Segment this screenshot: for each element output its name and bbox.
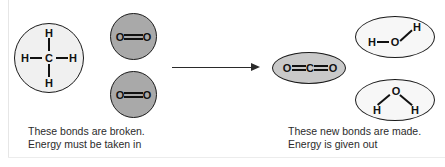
reaction-arrow-shaft [172, 67, 252, 69]
bond-c-h-bottom [48, 64, 50, 77]
atom-h-bottom: H [45, 78, 53, 89]
bond-o-double-bottom [124, 92, 143, 98]
atom-o-left-co2: O [283, 63, 292, 74]
caption-bonds-broken-line2: Energy must be taken in [28, 138, 141, 151]
atom-o-top-water-bottom: O [392, 86, 401, 97]
atom-h-top: H [45, 28, 53, 39]
bond-c-h-right [56, 57, 68, 59]
atom-o-center-water-top: O [391, 37, 400, 48]
bond-c-h-top [48, 38, 50, 51]
bond-o-double-top [124, 34, 143, 40]
atom-h-left-water-bottom: H [373, 105, 381, 116]
page-edge-bottom-line [8, 157, 445, 158]
atom-h-right: H [69, 53, 77, 64]
bond-co2-right-double [314, 65, 328, 71]
bond-c-h-left [30, 57, 42, 59]
atom-h-upper-water-top: H [413, 22, 421, 33]
atom-o-right-co2: O [329, 63, 338, 74]
atom-o-left-bottom: O [116, 90, 125, 101]
atom-c-center-co2: C [306, 63, 314, 74]
atom-o-left-top: O [116, 32, 125, 43]
atom-h-right-water-bottom: H [411, 105, 419, 116]
atom-o-right-bottom: O [143, 90, 152, 101]
atom-h-left: H [21, 53, 29, 64]
reaction-energy-diagram: H H C H H O O O O O C O H O H O H H Thes… [0, 0, 445, 167]
caption-bonds-made-line1: These new bonds are made. [288, 125, 421, 138]
atom-c-center: C [45, 53, 53, 64]
bond-h-o-top-horizontal [377, 41, 389, 43]
atom-h-left-water-top: H [368, 37, 376, 48]
atom-o-right-top: O [143, 32, 152, 43]
reaction-arrow-head [251, 63, 260, 71]
caption-bonds-broken-line1: These bonds are broken. [28, 125, 145, 138]
caption-bonds-made-line2: Energy is given out [288, 138, 377, 151]
bond-co2-left-double [292, 65, 306, 71]
page-edge-line [8, 0, 9, 158]
